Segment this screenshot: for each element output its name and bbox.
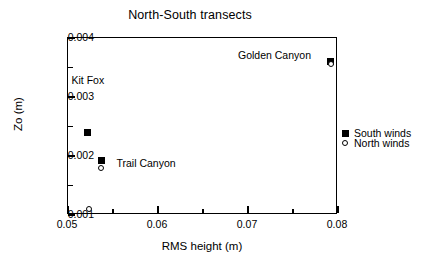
x-axis-tick (157, 206, 158, 213)
y-axis-tick-label: 0.002 (42, 149, 94, 161)
point-annotation: Golden Canyon (238, 49, 311, 61)
y-axis-title: Zo (m) (12, 74, 24, 154)
legend-item: North winds (340, 138, 435, 148)
x-axis-tick (112, 209, 113, 214)
data-point-circle (86, 206, 92, 212)
chart-figure: North-South transects Zo (m) RMS height … (0, 0, 437, 266)
x-axis-title: RMS height (m) (67, 240, 337, 252)
plot-area (67, 37, 337, 214)
data-point-square (84, 129, 91, 136)
chart-legend: South windsNorth winds (340, 128, 435, 148)
open-circle-icon (342, 140, 348, 146)
y-axis-tick-label: 0.003 (42, 90, 94, 102)
filled-square-icon (342, 130, 349, 137)
legend-marker (340, 128, 354, 138)
point-annotation: Trail Canyon (117, 157, 176, 169)
x-axis-tick (292, 209, 293, 214)
legend-label: North winds (354, 138, 409, 148)
legend-marker (340, 138, 354, 148)
data-point-square (98, 157, 105, 164)
chart-title: North-South transects (0, 8, 380, 22)
y-axis-tick (68, 67, 73, 68)
y-axis-tick-label: 0.004 (42, 31, 94, 43)
y-axis-tick (68, 126, 73, 127)
x-axis-tick (337, 206, 338, 213)
point-annotation: Kit Fox (72, 74, 105, 86)
x-axis-tick-label: 0.07 (219, 218, 275, 230)
x-axis-tick-label: 0.06 (129, 218, 185, 230)
y-axis-tick (68, 185, 73, 186)
x-axis-tick (202, 209, 203, 214)
x-axis-tick (247, 206, 248, 213)
x-axis-tick-label: 0.08 (309, 218, 365, 230)
x-axis-tick-label: 0.05 (39, 218, 95, 230)
data-point-circle (328, 61, 334, 67)
